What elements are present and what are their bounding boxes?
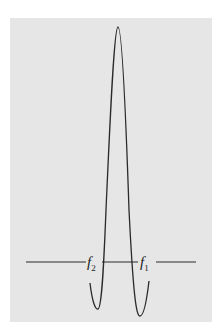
curve-diagram	[0, 0, 224, 334]
label-f2: f2	[87, 255, 96, 273]
label-f1: f1	[140, 255, 149, 273]
